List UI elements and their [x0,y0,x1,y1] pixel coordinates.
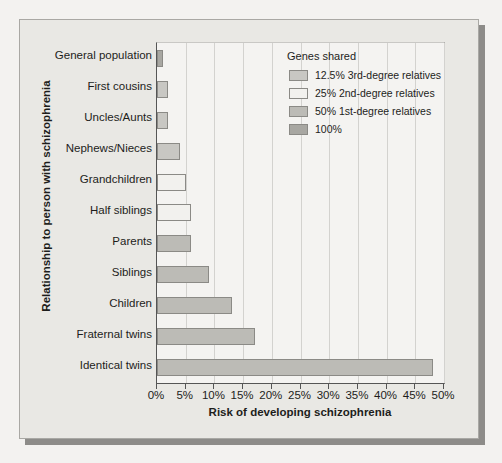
y-axis-tick-label: Children [27,297,152,309]
legend-item-label: 12.5% 3rd-degree relatives [315,69,441,81]
x-axis-tick-label: 40% [374,389,397,401]
legend-item: 12.5% 3rd-degree relatives [285,66,465,84]
bar-row [157,321,444,352]
y-axis-tick-label: Fraternal twins [27,328,152,340]
bar [157,143,180,160]
legend-item: 100% [285,120,465,138]
bar [157,112,168,129]
y-axis-tick-label: Identical twins [27,359,152,371]
bar-chart: Relationship to person with schizophreni… [20,20,480,440]
legend-item: 25% 2nd-degree relatives [285,84,465,102]
legend-swatch-icon [289,88,308,99]
bar-row [157,259,444,290]
y-axis-tick-label: Siblings [27,266,152,278]
x-axis-tick-label: 0% [148,389,165,401]
y-axis-tick-label: Nephews/Nieces [27,142,152,154]
legend-title: Genes shared [285,50,465,62]
bar [157,297,232,314]
x-axis-tick-label: 25% [288,389,311,401]
x-axis-tick-label: 45% [403,389,426,401]
legend-item-label: 100% [315,123,342,135]
legend-item: 50% 1st-degree relatives [285,102,465,120]
legend: Genes shared 12.5% 3rd-degree relatives2… [285,50,465,138]
bar [157,235,191,252]
x-axis-tick-label: 50% [431,389,454,401]
y-axis-tick-label: General population [27,49,152,61]
y-axis-tick-label: Half siblings [27,204,152,216]
figure-page: Relationship to person with schizophreni… [0,0,502,463]
bar [157,328,255,345]
x-axis-tick-label: 15% [231,389,254,401]
legend-item-label: 25% 2nd-degree relatives [315,87,435,99]
legend-swatch-icon [289,106,308,117]
bar [157,174,186,191]
x-axis-title: Risk of developing schizophrenia [140,406,460,418]
x-axis-tick-label: 20% [259,389,282,401]
x-axis-tick-label: 10% [202,389,225,401]
y-axis-tick-label: Parents [27,235,152,247]
bar [157,359,433,376]
x-axis-tick-label: 35% [345,389,368,401]
bar [157,50,163,67]
bar [157,204,191,221]
bar-row [157,290,444,321]
y-axis-tick-labels: General populationFirst cousinsUncles/Au… [26,42,152,382]
y-axis-tick-label: First cousins [27,80,152,92]
y-axis-tick-label: Grandchildren [27,173,152,185]
bar-row [157,228,444,259]
bar-row [157,352,444,383]
legend-swatch-icon [289,124,308,135]
x-axis-tick-labels: 0%5%10%15%20%25%30%35%40%45%50% [156,384,443,402]
bar-row [157,167,444,198]
x-axis-tick-label: 30% [317,389,340,401]
bar-row [157,198,444,229]
figure-frame: Relationship to person with schizophreni… [19,19,479,439]
y-axis-tick-label: Uncles/Aunts [27,111,152,123]
bar [157,81,168,98]
legend-items: 12.5% 3rd-degree relatives25% 2nd-degree… [285,66,465,138]
x-axis-tick-label: 5% [176,389,193,401]
bar-row [157,136,444,167]
bar [157,266,209,283]
legend-item-label: 50% 1st-degree relatives [315,105,431,117]
legend-swatch-icon [289,70,308,81]
